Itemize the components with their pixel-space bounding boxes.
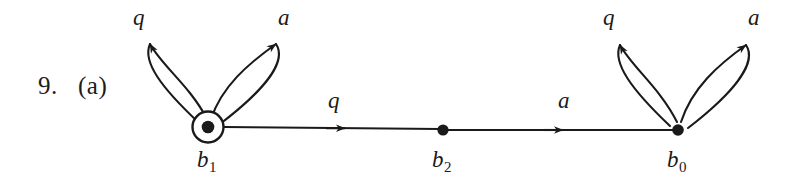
edge-label-b2-b0: a <box>558 88 570 114</box>
automaton-figure: 9. (a) <box>0 0 791 195</box>
edge-label-b2-b1: q <box>328 88 340 114</box>
node-label-b2-base: b <box>432 147 444 172</box>
node-b0 <box>672 124 684 136</box>
self-loop-label-b1-a: a <box>278 5 290 31</box>
self-loop-b0-a <box>681 45 749 128</box>
node-b2 <box>437 124 448 135</box>
node-label-b2: b2 <box>432 147 452 176</box>
node-label-b1-subscript: 1 <box>209 159 217 175</box>
self-loop-label-b0-a: a <box>748 5 760 31</box>
node-label-b0-base: b <box>667 147 679 172</box>
node-label-b0: b0 <box>667 147 687 176</box>
self-loop-b1-a <box>211 44 279 124</box>
node-label-b1: b1 <box>197 147 217 176</box>
node-label-b1-base: b <box>197 147 209 172</box>
node-label-b0-subscript: 0 <box>679 159 687 175</box>
self-loop-label-b0-q: q <box>603 5 615 31</box>
node-b1 <box>193 112 224 143</box>
self-loop-b1-q <box>148 44 207 122</box>
self-loop-label-b1-q: q <box>133 5 145 31</box>
edge-b2-to-b1 <box>224 127 440 129</box>
node-label-b2-subscript: 2 <box>444 159 452 175</box>
self-loop-b0-q <box>618 45 677 126</box>
